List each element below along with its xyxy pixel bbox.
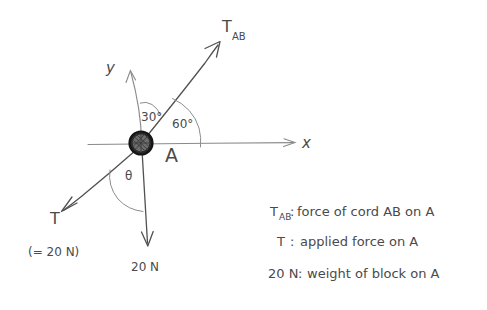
x-axis [88,139,295,147]
weight-vector-label: 20 N [131,260,159,274]
free-body-diagram-sketch: x y 30° 60° θ A T AB T (= 20 N) 20 N T A… [0,0,487,310]
legend: T AB : force of cord AB on A T : applied… [268,204,440,281]
legend-2-separator: : [290,234,294,249]
legend-1-symbol: T [269,204,278,219]
legend-line-2: T : applied force on A [276,234,418,249]
particle-A [130,132,153,155]
legend-2-symbol: T [276,234,285,249]
vector-tab [138,42,220,148]
legend-3-symbol: 20 N [268,266,298,281]
y-axis-label: y [105,59,116,77]
vector-t-note: (= 20 N) [28,245,79,259]
legend-line-1: T AB : force of cord AB on A [269,204,434,222]
legend-3-text: weight of block on A [307,266,440,281]
x-axis-line [88,143,293,145]
vector-t-arrowhead [62,197,78,212]
legend-3-separator: : [298,266,302,281]
legend-1-separator: : [290,204,294,219]
diagram-page: x y 30° 60° θ A T AB T (= 20 N) 20 N T A… [0,0,487,310]
legend-2-text: applied force on A [300,234,418,249]
angle-60-label: 60° [172,117,193,131]
legend-1-text: force of cord AB on A [297,204,434,219]
angle-30-label: 30° [141,110,162,124]
weight-vector [142,150,154,246]
vector-tab-arrowhead [205,42,220,58]
weight-vector-line [142,150,148,243]
vector-t-label-main: T [49,209,60,228]
vector-tab-label-sub: AB [232,31,246,42]
vector-tab-label-main: T [221,17,232,36]
particle-label-A: A [165,144,178,166]
vector-tab-line [138,45,218,147]
vector-t-label: T (= 20 N) [28,209,79,259]
y-axis-arrowhead [126,71,136,83]
angle-theta-label: θ [125,169,132,183]
legend-line-3: 20 N : weight of block on A [268,266,440,281]
x-axis-label: x [301,134,311,152]
vector-tab-label: T AB [221,17,246,42]
